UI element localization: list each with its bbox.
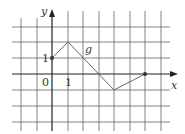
origin-label: 0 <box>42 76 49 89</box>
x-axis-arrow-icon <box>170 71 178 77</box>
grid <box>12 11 170 131</box>
function-label: g <box>85 43 92 56</box>
end-point-dot <box>143 72 147 76</box>
y-tick-label: 1 <box>42 52 49 65</box>
x-tick-label: 1 <box>65 76 72 89</box>
axes <box>12 16 172 131</box>
y-axis-arrow-icon <box>49 9 55 17</box>
start-point-dot <box>50 56 54 60</box>
y-axis-label: y <box>40 5 48 18</box>
function-graph: y x 1 0 1 g <box>0 0 185 134</box>
x-axis-label: x <box>171 79 178 92</box>
